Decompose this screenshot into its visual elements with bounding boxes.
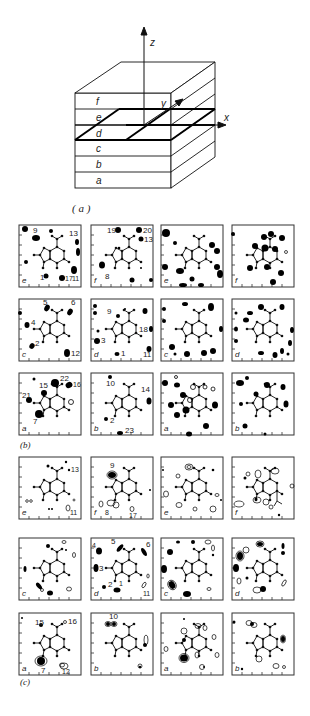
panel-c-grid: 13 11 e 9 8 17 f [19, 457, 294, 675]
svg-text:8: 8 [105, 272, 110, 281]
axis-y-label: y [160, 98, 167, 109]
map-c-f1: 9 8 17 f [91, 457, 153, 519]
caption-b: (b) [20, 440, 31, 450]
svg-text:7: 7 [33, 417, 38, 426]
map-c-c2: c [161, 538, 223, 600]
svg-text:18: 18 [139, 325, 148, 334]
svg-text:4: 4 [31, 318, 36, 327]
svg-text:21: 21 [22, 391, 31, 400]
map-c-a2: a [161, 613, 223, 675]
svg-text:6: 6 [146, 540, 151, 549]
svg-text:7: 7 [41, 666, 46, 675]
svg-text:11: 11 [72, 275, 79, 282]
svg-text:13: 13 [71, 466, 79, 473]
map-b-a2: a [161, 373, 223, 437]
axis-z-label: z [149, 37, 155, 48]
caption-a: ( a ) [72, 202, 91, 215]
svg-text:e: e [164, 508, 169, 517]
map-b-d1: 9 18 3 1 11 d [91, 299, 153, 361]
svg-text:1: 1 [121, 349, 126, 358]
map-c-d1: 5 6 4 3 2 1 11 d [91, 537, 153, 600]
svg-text:a: a [164, 664, 169, 673]
svg-text:11: 11 [143, 590, 150, 597]
svg-text:a: a [22, 664, 27, 673]
svg-text:1: 1 [40, 273, 45, 282]
svg-text:16: 16 [68, 617, 77, 626]
map-b-c1: 5 6 4 2 12 c [18, 298, 81, 361]
panel-b-grid: 9 13 1 17 11 e 19 20 13 8 f [18, 225, 294, 437]
map-b-b2: b [232, 373, 294, 436]
map-b-f2: f [231, 225, 294, 287]
svg-text:c: c [22, 350, 26, 359]
svg-text:11: 11 [143, 350, 152, 359]
svg-text:a: a [96, 175, 102, 186]
map-b-b1: 10 14 2 23 b [91, 373, 153, 435]
svg-text:20: 20 [143, 226, 152, 235]
map-c-e2: e [161, 457, 223, 519]
axis-x-label: x [223, 112, 230, 123]
svg-text:12: 12 [62, 668, 70, 675]
map-c-b2: b [232, 613, 294, 675]
map-c-f2: f [232, 457, 294, 519]
svg-text:2: 2 [110, 416, 115, 425]
svg-text:23: 23 [125, 426, 134, 435]
map-b-d2: d [232, 299, 294, 361]
map-b-a1: 22 16 15 21 7 a [19, 373, 81, 435]
svg-text:9: 9 [110, 461, 115, 470]
svg-text:b: b [235, 424, 240, 433]
svg-text:a: a [22, 424, 27, 433]
svg-text:d: d [96, 128, 102, 139]
svg-text:3: 3 [99, 564, 104, 573]
svg-text:9: 9 [107, 307, 112, 316]
map-b-f1: 19 20 13 8 f [91, 225, 153, 287]
svg-text:e: e [164, 276, 169, 285]
svg-text:12: 12 [71, 349, 80, 358]
svg-text:c: c [96, 143, 101, 154]
svg-text:c: c [164, 589, 168, 598]
svg-text:d: d [235, 589, 240, 598]
svg-text:16: 16 [73, 381, 81, 388]
svg-text:d: d [94, 589, 99, 598]
svg-text:5: 5 [111, 537, 116, 546]
svg-text:1: 1 [119, 580, 123, 587]
svg-text:b: b [96, 159, 102, 170]
map-c-a1: 15 16 7 12 a [19, 613, 81, 675]
svg-text:4: 4 [92, 542, 96, 549]
svg-text:3: 3 [101, 336, 106, 345]
svg-text:c: c [164, 350, 168, 359]
svg-text:2: 2 [35, 339, 40, 348]
svg-text:10: 10 [106, 379, 115, 388]
map-c-e1: 13 11 e [19, 457, 81, 519]
svg-text:17: 17 [129, 512, 137, 519]
figure-canvas: z y x f e d c b a ( a ) 9 13 1 17 11 e [0, 0, 310, 716]
svg-text:b: b [94, 664, 99, 673]
map-c-c1: c [19, 538, 81, 600]
map-c-b1: 10 b [91, 612, 153, 675]
svg-text:b: b [94, 424, 99, 433]
svg-text:2: 2 [108, 580, 113, 589]
map-b-c2: c [161, 299, 223, 361]
map-c-d2: d [232, 538, 294, 600]
caption-c: (c) [20, 677, 30, 687]
svg-text:15: 15 [39, 381, 48, 390]
svg-text:22: 22 [60, 374, 69, 383]
svg-text:11: 11 [70, 509, 77, 516]
svg-text:13: 13 [144, 235, 153, 244]
svg-text:e: e [22, 276, 27, 285]
svg-text:d: d [235, 350, 240, 359]
svg-text:9: 9 [33, 226, 38, 235]
svg-text:10: 10 [109, 612, 118, 621]
svg-text:13: 13 [69, 229, 78, 238]
svg-text:15: 15 [35, 618, 44, 627]
svg-text:e: e [96, 112, 102, 123]
svg-text:5: 5 [43, 298, 48, 307]
svg-text:14: 14 [141, 385, 150, 394]
svg-text:a: a [164, 424, 169, 433]
svg-text:c: c [22, 589, 26, 598]
svg-text:d: d [94, 350, 99, 359]
map-b-e1: 9 13 1 17 11 e [19, 225, 81, 287]
svg-text:e: e [22, 508, 27, 517]
svg-text:b: b [235, 664, 240, 673]
svg-text:6: 6 [71, 298, 76, 307]
svg-text:19: 19 [107, 226, 116, 235]
